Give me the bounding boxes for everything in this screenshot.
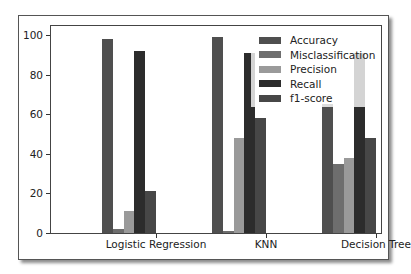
bar-precision [124,211,135,233]
plot-area: Logistic RegressionKNNDecision Tree02040… [50,25,382,234]
legend-label: f1-score [290,92,332,104]
y-tick [46,114,50,115]
y-tick [46,193,50,194]
bar-accuracy [212,37,223,233]
legend-label: Recall [290,78,321,90]
legend-swatch [259,37,281,44]
bar-misclassification [223,231,234,233]
legend-label: Accuracy [290,34,338,46]
bar-accuracy [102,39,113,233]
legend-item: Accuracy [259,34,338,46]
y-tick-label: 20 [11,187,43,199]
legend-item: Recall [259,78,321,90]
bar-precision [234,138,245,233]
bar-f1-score [145,191,156,233]
legend-swatch [259,51,281,58]
bar-recall [134,51,145,233]
legend-swatch [259,66,281,73]
legend-label: Misclassification [290,49,375,61]
legend-item: Precision [259,63,337,75]
bar-precision [344,158,355,233]
y-tick-label: 100 [11,29,43,41]
y-tick [46,233,50,234]
legend-swatch [259,80,281,87]
bar-f1-score [365,138,376,233]
x-tick-label: Logistic Regression [106,238,207,250]
legend-item: f1-score [259,92,332,104]
legend-item: Misclassification [259,49,375,61]
legend: AccuracyMisclassificationPrecisionRecall… [251,29,379,107]
y-tick [46,35,50,36]
y-tick-label: 40 [11,148,43,160]
bar-accuracy [322,104,333,233]
legend-swatch [259,95,281,102]
y-tick [46,75,50,76]
x-tick-label: Decision Tree [341,238,411,250]
bar-f1-score [255,118,266,233]
y-tick-label: 0 [11,227,43,239]
legend-label: Precision [290,63,337,75]
y-tick-label: 80 [11,69,43,81]
y-tick [46,154,50,155]
x-tick-label: KNN [255,238,278,250]
bar-misclassification [333,164,344,233]
y-tick-label: 60 [11,108,43,120]
bar-misclassification [113,229,124,233]
